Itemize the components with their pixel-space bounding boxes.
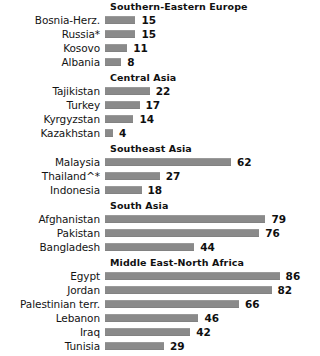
- bar-row: Tajikistan22: [0, 84, 320, 98]
- grouped-bar-chart: Southern-Eastern EuropeBosnia-Herz.15Rus…: [0, 0, 320, 356]
- bar-row: Egypt86: [0, 269, 320, 283]
- bar-row: Bosnia-Herz.15: [0, 13, 320, 27]
- bar-value-label: 18: [142, 183, 163, 197]
- bar-track: 62: [105, 155, 320, 169]
- bar-row: Russia*15: [0, 27, 320, 41]
- bar-category-label: Kazakhstan: [0, 126, 105, 140]
- bar-track: 44: [105, 240, 320, 254]
- bar-category-label: Turkey: [0, 98, 105, 112]
- bar-row: Tunisia29: [0, 339, 320, 353]
- bar: [105, 158, 231, 166]
- bar-row: Jordan82: [0, 283, 320, 297]
- bar-value-label: 11: [127, 41, 148, 55]
- group-header: Southeast Asia: [110, 143, 320, 155]
- bar-row: Kyrgyzstan14: [0, 112, 320, 126]
- bar: [105, 115, 133, 123]
- bar-value-label: 29: [164, 339, 185, 353]
- bar-row: Iraq42: [0, 325, 320, 339]
- bar-row: Kosovo11: [0, 41, 320, 55]
- group-header: Central Asia: [110, 72, 320, 84]
- bar-track: 18: [105, 183, 320, 197]
- group-header: South Asia: [110, 200, 320, 212]
- bar: [105, 44, 127, 52]
- bar-value-label: 82: [272, 283, 293, 297]
- bar-track: 42: [105, 325, 320, 339]
- bar-category-label: Bosnia-Herz.: [0, 13, 105, 27]
- bar-category-label: Thailand^*: [0, 169, 105, 183]
- bar: [105, 172, 160, 180]
- bar-track: 86: [105, 269, 320, 283]
- bar-row: Albania8: [0, 55, 320, 69]
- bar-row: Thailand^*27: [0, 169, 320, 183]
- bar-row: Indonesia18: [0, 183, 320, 197]
- bar-track: 8: [105, 55, 320, 69]
- bar-row: Kazakhstan4: [0, 126, 320, 140]
- bar-track: 79: [105, 212, 320, 226]
- bar-category-label: Kosovo: [0, 41, 105, 55]
- bar-track: 4: [105, 126, 320, 140]
- bar-value-label: 42: [190, 325, 211, 339]
- bar-track: 22: [105, 84, 320, 98]
- bar-track: 17: [105, 98, 320, 112]
- bar: [105, 186, 142, 194]
- bar-value-label: 4: [113, 126, 126, 140]
- chart-group: Middle East-North AfricaEgypt86Jordan82P…: [0, 257, 320, 353]
- bar: [105, 58, 121, 66]
- bar-category-label: Pakistan: [0, 226, 105, 240]
- bar: [105, 314, 198, 322]
- bar-category-label: Jordan: [0, 283, 105, 297]
- bar-row: Pakistan76: [0, 226, 320, 240]
- chart-group: Southeast AsiaMalaysia62Thailand^*27Indo…: [0, 143, 320, 197]
- bar-value-label: 62: [231, 155, 252, 169]
- bar-category-label: Bangladesh: [0, 240, 105, 254]
- bar-track: 15: [105, 13, 320, 27]
- bar-category-label: Indonesia: [0, 183, 105, 197]
- chart-group: Central AsiaTajikistan22Turkey17Kyrgyzst…: [0, 72, 320, 140]
- bar-value-label: 86: [280, 269, 301, 283]
- bar-value-label: 66: [239, 297, 260, 311]
- bar-track: 82: [105, 283, 320, 297]
- group-header: Southern-Eastern Europe: [110, 1, 320, 13]
- bar-row: Afghanistan79: [0, 212, 320, 226]
- bar: [105, 272, 280, 280]
- bar-track: 27: [105, 169, 320, 183]
- bar: [105, 286, 272, 294]
- bar-value-label: 14: [133, 112, 154, 126]
- bar-value-label: 79: [265, 212, 286, 226]
- bar-row: Malaysia62: [0, 155, 320, 169]
- bar-value-label: 76: [259, 226, 280, 240]
- bar-row: Bangladesh44: [0, 240, 320, 254]
- bar: [105, 229, 259, 237]
- bar-value-label: 27: [160, 169, 181, 183]
- bar-track: 15: [105, 27, 320, 41]
- bar-category-label: Egypt: [0, 269, 105, 283]
- bar-category-label: Lebanon: [0, 311, 105, 325]
- bar-category-label: Albania: [0, 55, 105, 69]
- bar-value-label: 17: [140, 98, 161, 112]
- bar: [105, 87, 150, 95]
- bar: [105, 129, 113, 137]
- bar-value-label: 44: [194, 240, 215, 254]
- group-header: Middle East-North Africa: [110, 257, 320, 269]
- chart-group: Southern-Eastern EuropeBosnia-Herz.15Rus…: [0, 1, 320, 69]
- bar: [105, 101, 140, 109]
- bar-value-label: 46: [198, 311, 219, 325]
- bar-value-label: 8: [121, 55, 134, 69]
- bar-track: 11: [105, 41, 320, 55]
- bar-track: 29: [105, 339, 320, 353]
- bar: [105, 342, 164, 350]
- bar-track: 76: [105, 226, 320, 240]
- bar-category-label: Malaysia: [0, 155, 105, 169]
- bar: [105, 243, 194, 251]
- bar-category-label: Russia*: [0, 27, 105, 41]
- bar-row: Palestinian terr.66: [0, 297, 320, 311]
- bar-track: 46: [105, 311, 320, 325]
- bar-category-label: Kyrgyzstan: [0, 112, 105, 126]
- bar-row: Lebanon46: [0, 311, 320, 325]
- bar: [105, 328, 190, 336]
- bar: [105, 215, 265, 223]
- bar-category-label: Palestinian terr.: [0, 297, 105, 311]
- bar-category-label: Tunisia: [0, 339, 105, 353]
- bar-category-label: Tajikistan: [0, 84, 105, 98]
- chart-group: South AsiaAfghanistan79Pakistan76Banglad…: [0, 200, 320, 254]
